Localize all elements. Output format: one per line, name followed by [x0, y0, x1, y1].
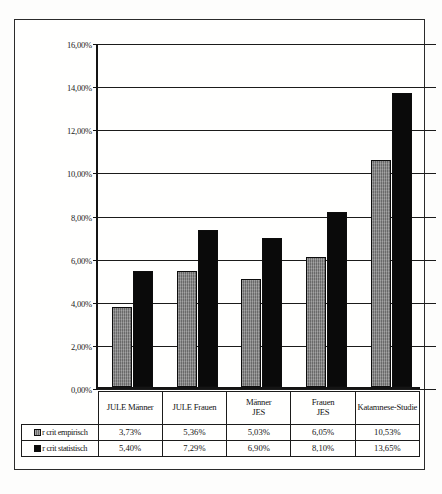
legend-swatch [34, 429, 41, 436]
y-axis-tick-label: 14,00% [67, 83, 92, 93]
y-axis-tick-mark [93, 217, 98, 218]
table-cell-value: 7,29% [162, 441, 226, 457]
y-axis-tick-label: 8,00% [71, 213, 92, 223]
legend-entry: r crit statistisch [22, 441, 99, 457]
bar-group [294, 44, 359, 387]
bar [198, 230, 218, 387]
y-axis-tick-label: 2,00% [71, 342, 92, 352]
table-header-row: JULE MännerJULE FrauenMännerJESFrauenJES… [22, 392, 420, 425]
bar [392, 93, 412, 387]
category-header: JULE Frauen [162, 392, 226, 425]
chart-frame: 0,00%2,00%4,00%6,00%8,00%10,00%12,00%14,… [14, 19, 425, 470]
bar-group [359, 44, 424, 387]
legend-swatch [34, 445, 41, 452]
bar [241, 279, 261, 387]
y-axis-tick-mark [93, 303, 98, 304]
bar-group [100, 44, 165, 387]
table-cell-value: 5,03% [227, 425, 291, 441]
bar-group [230, 44, 295, 387]
y-axis-tick-mark [93, 346, 98, 347]
table-row: r crit empirisch3,73%5,36%5,03%6,05%10,5… [22, 425, 420, 441]
category-header: MännerJES [227, 392, 291, 425]
bar [327, 212, 347, 387]
category-header: JULE Männer [98, 392, 162, 425]
legend-entry: r crit empirisch [22, 425, 99, 441]
bar [262, 238, 282, 387]
category-header: Katamnese-Studie [355, 392, 419, 425]
bars-layer [100, 44, 420, 387]
table-cell-value: 5,36% [162, 425, 226, 441]
y-axis-tick-label: 4,00% [71, 299, 92, 309]
y-axis-tick-mark [93, 130, 98, 131]
y-axis-tick-label: 6,00% [71, 256, 92, 266]
legend-label: r crit empirisch [42, 428, 88, 437]
y-axis-tick-label: 12,00% [67, 126, 92, 136]
table-row: r crit statistisch5,40%7,29%6,90%8,10%13… [22, 441, 420, 457]
y-axis-tick-label: 10,00% [67, 169, 92, 179]
data-table: JULE MännerJULE FrauenMännerJESFrauenJES… [21, 391, 420, 457]
bar-group [165, 44, 230, 387]
table-cell-value: 5,40% [98, 441, 162, 457]
table-cell-value: 6,05% [291, 425, 355, 441]
bar [371, 160, 391, 387]
table-cell-value: 13,65% [355, 441, 419, 457]
table-cell-value: 3,73% [98, 425, 162, 441]
y-axis-tick-mark [93, 260, 98, 261]
bar [133, 271, 153, 387]
y-axis-tick-mark [93, 44, 98, 45]
bar [112, 307, 132, 387]
bar [306, 257, 326, 387]
legend-label: r crit statistisch [42, 444, 87, 453]
plot-area: 0,00%2,00%4,00%6,00%8,00%10,00%12,00%14,… [96, 44, 420, 389]
y-axis-tick-mark [93, 87, 98, 88]
table-corner-cell [22, 392, 99, 425]
table-cell-value: 8,10% [291, 441, 355, 457]
y-axis-tick-label: 16,00% [67, 40, 92, 50]
gridline-000: 0,00% [98, 389, 436, 390]
category-header: FrauenJES [291, 392, 355, 425]
table-cell-value: 6,90% [227, 441, 291, 457]
table-cell-value: 10,53% [355, 425, 419, 441]
y-axis-tick-mark [93, 389, 98, 390]
y-axis-tick-mark [93, 173, 98, 174]
bar [177, 271, 197, 387]
